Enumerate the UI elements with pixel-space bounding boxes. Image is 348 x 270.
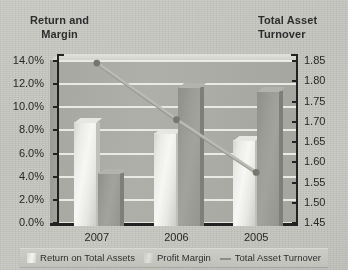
right-axis-tick-label: 1.70: [304, 116, 348, 127]
left-axis-tick-label: 6.0%: [0, 148, 44, 159]
chart-legend: Return on Total AssetsProfit MarginTotal…: [20, 248, 328, 267]
chart-canvas: Return and Margin Total Asset Turnover 1…: [0, 0, 348, 270]
left-axis-tick-label: 14.0%: [0, 55, 44, 66]
left-axis-tick-label: 12.0%: [0, 78, 44, 89]
left-axis-tick-label: 8.0%: [0, 124, 44, 135]
legend-item[interactable]: Total Asset Turnover: [220, 252, 321, 263]
right-axis-tick-label: 1.60: [304, 156, 348, 167]
legend-item[interactable]: Return on Total Assets: [27, 252, 135, 263]
legend-swatch-icon: [144, 253, 153, 263]
left-axis-title: Return and Margin: [30, 13, 89, 41]
left-axis-title-line2: Margin: [30, 27, 89, 41]
legend-item[interactable]: Profit Margin: [144, 252, 211, 263]
right-axis-title-line1: Total Asset: [258, 13, 348, 27]
legend-line-icon: [220, 253, 231, 263]
left-axis-tick-label: 10.0%: [0, 101, 44, 112]
right-axis-title-line2: Turnover: [258, 27, 348, 41]
category-label: 2006: [147, 231, 207, 243]
category-label: 2007: [67, 231, 127, 243]
right-axis-tick-label: 1.55: [304, 177, 348, 188]
line-marker: [253, 169, 260, 176]
left-axis-tick-label: 0.0%: [0, 217, 44, 228]
category-label: 2005: [226, 231, 286, 243]
right-axis-tick-label: 1.85: [304, 55, 348, 66]
right-axis-tick-label: 1.80: [304, 75, 348, 86]
legend-label: Total Asset Turnover: [235, 252, 321, 263]
line-series-total-asset-turnover: [50, 54, 298, 226]
right-axis-tick-label: 1.75: [304, 96, 348, 107]
left-axis-title-line1: Return and: [30, 13, 89, 27]
legend-label: Profit Margin: [157, 252, 211, 263]
right-axis-tick-label: 1.50: [304, 197, 348, 208]
right-axis-title: Total Asset Turnover: [253, 13, 348, 41]
left-axis-tick-label: 4.0%: [0, 171, 44, 182]
left-axis-tick-label: 2.0%: [0, 194, 44, 205]
right-axis-tick-label: 1.45: [304, 217, 348, 228]
right-axis-tick-label: 1.65: [304, 136, 348, 147]
legend-label: Return on Total Assets: [40, 252, 135, 263]
line-marker: [173, 116, 180, 123]
legend-swatch-icon: [27, 253, 36, 263]
plot-area: [50, 54, 298, 226]
line-marker: [93, 60, 100, 67]
